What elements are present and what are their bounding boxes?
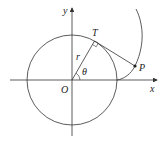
y-axis-label: y <box>62 5 68 16</box>
angle-arc <box>76 73 80 80</box>
x-axis-label: x <box>149 83 155 94</box>
angle-label: θ <box>82 66 87 77</box>
point-p-label: P <box>138 62 145 73</box>
tangent-point-label: T <box>92 27 99 38</box>
right-angle-marker <box>93 43 99 47</box>
involute-diagram: y x O T P r θ <box>0 0 163 142</box>
tangent-line <box>95 41 136 66</box>
point-p-dot <box>133 64 136 67</box>
radius-label: r <box>76 51 80 62</box>
origin-label: O <box>61 84 68 95</box>
